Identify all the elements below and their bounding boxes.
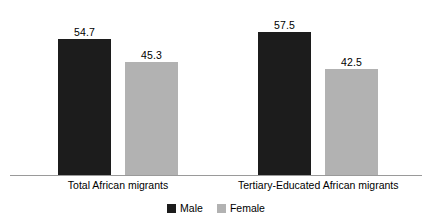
bar-female[interactable] xyxy=(325,69,378,176)
plot-area: 54.7 45.3 57.5 42.5 xyxy=(0,0,432,176)
bar-value-label: 42.5 xyxy=(325,56,378,68)
x-axis-category-labels: Total African migrants Tertiary-Educated… xyxy=(0,178,432,194)
bar-value-label: 45.3 xyxy=(125,49,178,61)
bar-female[interactable] xyxy=(125,62,178,176)
legend-swatch-icon xyxy=(217,204,226,213)
legend-label: Female xyxy=(230,202,265,214)
legend-item-female[interactable]: Female xyxy=(217,202,265,214)
x-axis-line xyxy=(10,175,422,176)
bar-group-tertiary-educated-african-migrants: 57.5 42.5 xyxy=(258,0,378,176)
bar-value-label: 54.7 xyxy=(58,26,111,38)
bar-male[interactable] xyxy=(58,39,111,176)
bar-chart: 54.7 45.3 57.5 42.5 Total African migran… xyxy=(0,0,432,223)
bar-group-total-african-migrants: 54.7 45.3 xyxy=(58,0,178,176)
legend-item-male[interactable]: Male xyxy=(167,202,203,214)
bar-male[interactable] xyxy=(258,32,311,176)
bar-value-label: 57.5 xyxy=(258,19,311,31)
category-label-1: Total African migrants xyxy=(58,178,178,192)
category-label-2: Tertiary-Educated African migrants xyxy=(238,178,398,192)
chart-legend: Male Female xyxy=(0,202,432,214)
legend-swatch-icon xyxy=(167,204,176,213)
legend-label: Male xyxy=(180,202,203,214)
